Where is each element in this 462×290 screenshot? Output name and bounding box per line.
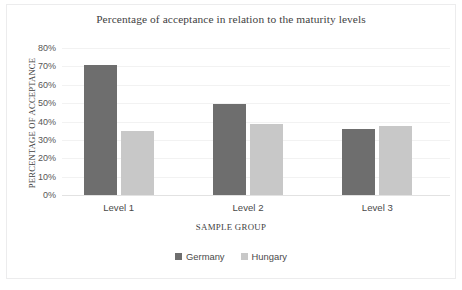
gridline	[62, 103, 450, 104]
gridline	[62, 66, 450, 67]
gridline	[62, 85, 450, 86]
bar-level-1-germany	[84, 65, 117, 195]
bar-level-2-hungary	[250, 124, 283, 195]
legend-label: Hungary	[252, 251, 287, 262]
bar-level-3-hungary	[379, 126, 412, 195]
gridline	[62, 48, 450, 49]
legend-label: Germany	[186, 251, 225, 262]
y-axis-title: PERCENTAGE OF ACCEPTANCE	[27, 43, 37, 203]
legend-swatch-icon	[175, 253, 182, 260]
chart-figure: Percentage of acceptance in relation to …	[0, 0, 462, 290]
legend-item-germany[interactable]: Germany	[175, 251, 225, 262]
gridline	[62, 122, 450, 123]
bar-level-2-germany	[213, 104, 246, 195]
category-label: Level 1	[64, 202, 174, 213]
chart-legend: GermanyHungary	[0, 251, 462, 262]
plot-area	[62, 48, 450, 195]
legend-swatch-icon	[241, 253, 248, 260]
chart-title: Percentage of acceptance in relation to …	[0, 13, 462, 25]
bar-level-3-germany	[342, 129, 375, 195]
bar-level-1-hungary	[121, 131, 154, 195]
x-axis-title: SAMPLE GROUP	[0, 222, 462, 232]
category-label: Level 3	[322, 202, 432, 213]
legend-item-hungary[interactable]: Hungary	[241, 251, 287, 262]
gridline	[62, 195, 450, 196]
category-label: Level 2	[193, 202, 303, 213]
